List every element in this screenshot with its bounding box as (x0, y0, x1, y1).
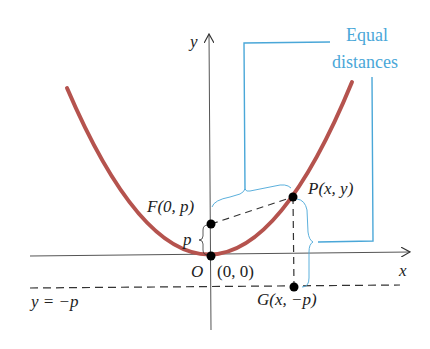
directrix-line (30, 285, 400, 288)
callout-text-line2: distances (332, 52, 398, 72)
point-label: P(x, y) (307, 179, 354, 198)
y-axis (209, 34, 211, 330)
brace-pg (297, 199, 313, 287)
brace-fp (212, 185, 291, 207)
point-to-directrix-dashed (293, 197, 294, 287)
origin-coords-label: (0, 0) (217, 262, 254, 281)
y-axis-label: y (188, 32, 198, 51)
callout-text-line1: Equal (346, 25, 388, 45)
parabola-point (289, 193, 298, 202)
callout-bracket-left (244, 42, 330, 190)
p-label: p (182, 230, 192, 249)
directrix-equation-label: y = −p (29, 292, 79, 311)
brace-p (199, 225, 208, 255)
focus-label: F(0, p) (146, 197, 195, 216)
x-axis-label: x (398, 261, 407, 280)
focus-point (207, 220, 216, 229)
origin-point (207, 252, 216, 261)
parabola-diagram: y x F(0, p) P(x, y) p O (0, 0) G(x, −p) … (0, 0, 430, 349)
directrix-point-label: G(x, −p) (257, 290, 317, 309)
origin-label: O (191, 262, 203, 281)
